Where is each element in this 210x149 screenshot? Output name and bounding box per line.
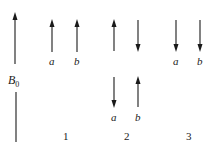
diagram-canvas (0, 0, 210, 149)
group2-top-arrow-down (136, 20, 141, 52)
group1-label-a: a (49, 56, 55, 67)
group2-label-a: a (111, 112, 117, 123)
group1-label-b: b (74, 56, 80, 67)
group3-number: 3 (186, 131, 192, 142)
group3-arrow-a-down (174, 20, 179, 52)
group3-arrow-b-down (198, 20, 203, 52)
group1-number: 1 (63, 131, 69, 142)
field-label-b0: B0 (8, 74, 19, 89)
group2-top-arrow-up (112, 19, 117, 51)
group2-bottom-arrow-b-up (136, 76, 141, 107)
group3-label-a: a (173, 56, 179, 67)
group2-label-b: b (135, 112, 141, 123)
group2-number: 2 (124, 131, 130, 142)
group1-arrow-a-up (50, 19, 55, 52)
group3-label-b: b (197, 56, 203, 67)
group1-arrow-b-up (75, 19, 80, 52)
group2-bottom-arrow-a-down (112, 77, 117, 108)
